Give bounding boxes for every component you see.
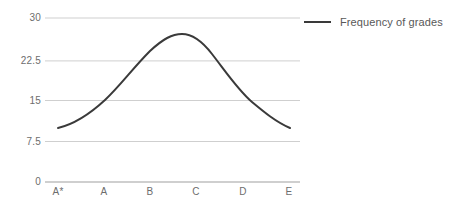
y-tick-label: 30 [1, 13, 41, 23]
y-tick-15: 15 [0, 96, 41, 106]
y-tick-30: 30 [0, 13, 41, 23]
y-tick-label: 0 [1, 177, 41, 187]
frequency-of-grades-chart: 30 22.5 15 7.5 0 A* A B C D E Frequency … [0, 0, 456, 208]
x-tick-a-star: A* [43, 186, 73, 198]
y-tick-7-5: 7.5 [0, 137, 41, 147]
y-tick-label: 22.5 [1, 56, 41, 66]
y-tick-label: 7.5 [1, 137, 41, 147]
legend-line-swatch [304, 21, 331, 23]
x-tick-c: C [181, 186, 211, 198]
y-tick-22-5: 22.5 [0, 56, 41, 66]
y-tick-0: 0 [0, 177, 41, 187]
chart-plot-area [0, 0, 456, 208]
x-tick-d: D [228, 186, 258, 198]
x-tick-a: A [89, 186, 119, 198]
legend-label: Frequency of grades [340, 16, 443, 28]
x-tick-e: E [274, 186, 304, 198]
frequency-line-series [58, 34, 290, 128]
chart-legend: Frequency of grades [304, 15, 443, 29]
y-tick-label: 15 [1, 96, 41, 106]
x-tick-b: B [135, 186, 165, 198]
